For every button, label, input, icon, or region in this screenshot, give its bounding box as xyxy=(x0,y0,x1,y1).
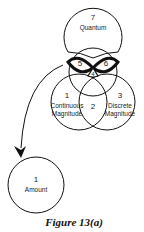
discrete-number: 3 xyxy=(118,91,123,100)
diagram-canvas: 7 Quantum 5 6 4 1 Continuous Magnitude 2… xyxy=(0,0,144,232)
amount-circle xyxy=(8,157,64,213)
amount-number: 1 xyxy=(34,175,39,184)
quantum-number: 7 xyxy=(91,13,96,22)
overlap-number: 2 xyxy=(91,102,96,111)
quantum-label: Quantum xyxy=(80,24,107,32)
continuous-label-2: Magnitude xyxy=(52,110,83,118)
figure-caption: Figure 13(a) xyxy=(44,216,103,229)
discrete-label-2: Magnitude xyxy=(105,110,136,118)
continuous-number: 1 xyxy=(65,91,70,100)
amount-label: Amount xyxy=(25,186,48,193)
lens-right-number: 6 xyxy=(104,59,109,68)
discrete-label-1: Discrete xyxy=(108,102,132,109)
arrowhead-icon xyxy=(14,146,26,158)
lens-left-number: 5 xyxy=(78,59,83,68)
continuous-label-1: Continuous xyxy=(51,102,85,109)
